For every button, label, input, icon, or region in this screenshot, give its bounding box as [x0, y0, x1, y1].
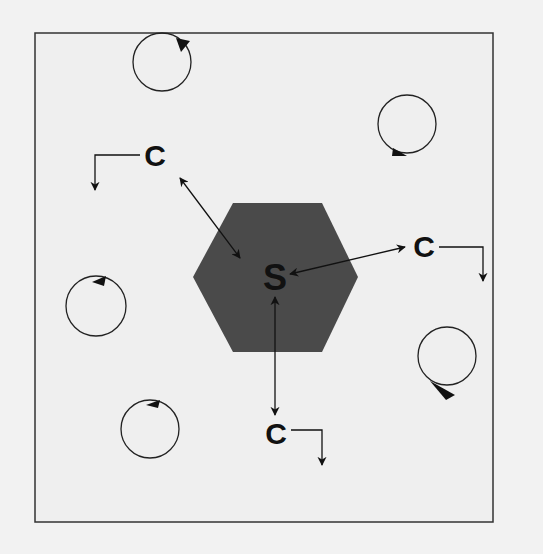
center-label: S [263, 257, 287, 298]
c-node-right: C [413, 230, 435, 263]
c-node-top-left: C [144, 139, 166, 172]
diagram-canvas: S C C C [0, 0, 543, 554]
c-node-bottom: C [265, 417, 287, 450]
